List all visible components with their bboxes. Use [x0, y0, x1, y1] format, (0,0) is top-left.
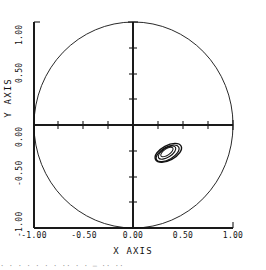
y-tick-label: 1.00	[15, 25, 24, 45]
central-axes	[34, 22, 233, 228]
y-tick-label: 0.50	[15, 63, 24, 83]
x-axis-title: X AXIS	[0, 246, 266, 256]
y-tick-label: -0.50	[15, 160, 24, 186]
x-tick-label: 1.00	[213, 231, 253, 240]
y-tick-label: -1.00	[15, 211, 24, 237]
y-tick-label: 0.00	[15, 127, 24, 147]
x-tick-label: 0.50	[163, 231, 203, 240]
y-axis-title: Y AXIS	[3, 78, 13, 118]
chart-figure: -1.00 -0.50 0.00 0.50 1.00 -1.00 -0.50 0…	[0, 0, 266, 270]
page-caption-partial: · · · · · · · ·· · · — ·· ··	[0, 262, 266, 270]
x-tick-label: 0.00	[113, 231, 153, 240]
x-tick-label: -0.50	[64, 231, 104, 240]
plot-canvas	[0, 0, 266, 270]
series-trajectory-ellipse-outer	[152, 139, 184, 166]
